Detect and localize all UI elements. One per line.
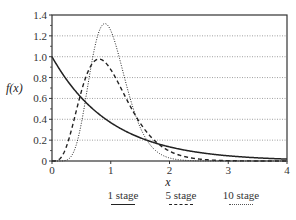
x-tick-label: 3 [226,164,232,176]
grid-lines [52,36,287,140]
y-tick-label: 0.4 [33,113,47,125]
legend-label: 5 stage [166,189,197,201]
x-tick-label: 1 [108,164,114,176]
legend-label: 1 stage [108,189,139,201]
y-tick-label: 0.6 [33,92,47,104]
x-axis: 01234 [49,161,290,176]
legend-label: 10 stage [223,189,259,201]
x-tick-label: 0 [49,164,55,176]
y-tick-label: 1.4 [33,9,47,21]
x-tick-label: 4 [284,164,290,176]
legend-item-5-stage: 5 stage [156,189,206,205]
series-5-stage [52,59,287,161]
chart-plot: 00.20.40.60.81.01.21.4 01234 f(x) x [0,0,296,190]
legend-item-1-stage: 1 stage [98,189,148,205]
legend: 1 stage 5 stage 10 stage [0,189,296,219]
plot-frame [52,15,287,161]
y-tick-label: 1.0 [33,51,47,63]
y-axis: 00.20.40.60.81.01.21.4 [33,9,52,167]
y-tick-label: 0.8 [33,72,47,84]
solid-line-sample [111,204,135,205]
x-axis-title: x [164,175,171,189]
dotted-line-sample [229,204,253,205]
y-axis-title: f(x) [6,81,23,95]
y-tick-label: 1.2 [33,30,47,42]
y-tick-label: 0 [42,155,48,167]
dashed-line-sample [169,204,193,205]
y-tick-label: 0.2 [33,134,47,146]
legend-item-10-stage: 10 stage [215,189,267,205]
